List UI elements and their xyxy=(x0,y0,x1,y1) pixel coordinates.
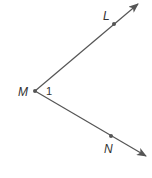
label-L: L xyxy=(103,9,110,23)
point-L xyxy=(112,22,116,26)
angle-label-1: 1 xyxy=(46,85,52,97)
label-N: N xyxy=(104,142,113,156)
point-N xyxy=(109,134,113,138)
angle-diagram: L M 1 N xyxy=(0,0,152,178)
ray-MN xyxy=(35,91,146,156)
ray-ML xyxy=(35,4,138,91)
label-M: M xyxy=(18,85,28,99)
vertex-point-M xyxy=(33,89,37,93)
